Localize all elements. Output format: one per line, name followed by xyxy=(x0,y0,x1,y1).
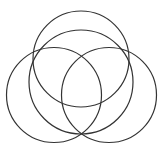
circle-middle xyxy=(29,30,133,134)
circle-left xyxy=(7,48,102,143)
circle-top xyxy=(33,11,129,107)
circle-right xyxy=(62,48,157,143)
overlapping-circles-diagram xyxy=(0,0,165,152)
